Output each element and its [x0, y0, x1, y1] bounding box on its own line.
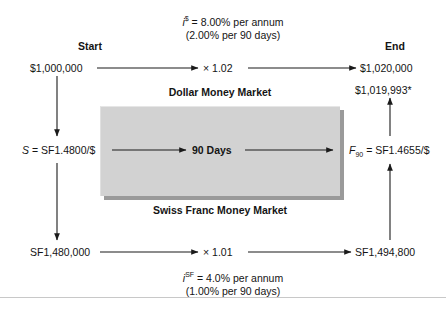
swiss-rate-line1: iSF = 4.0% per annum	[143, 268, 323, 285]
cia-proceeds-amount: $1,019,993*	[355, 84, 412, 97]
dollar-rate-annotation: i$ = 8.00% per annum (2.00% per 90 days)	[143, 12, 323, 42]
bottom-divider	[0, 297, 446, 298]
spot-rate-value: = SF1.4800/$	[32, 144, 95, 156]
dollar-money-market-label: Dollar Money Market	[130, 86, 310, 99]
swiss-rate-annotation: iSF = 4.0% per annum (1.00% per 90 days)	[143, 268, 323, 298]
forward-rate-label: F90 = SF1.4655/$	[349, 144, 429, 161]
dollar-rate-annual-text: = 8.00% per annum	[192, 16, 284, 28]
end-header: End	[355, 40, 435, 53]
spot-rate-symbol: S	[22, 144, 29, 156]
dollar-multiplier-label: × 1.02	[203, 62, 233, 75]
cia-flow-diagram: i$ = 8.00% per annum (2.00% per 90 days)…	[0, 0, 446, 310]
forward-rate-value: = SF1.4655/$	[366, 144, 429, 156]
swiss-rate-superscript: SF	[185, 271, 194, 278]
duration-label: 90 Days	[192, 144, 232, 157]
start-header: Start	[40, 40, 140, 53]
spot-rate-label: S = SF1.4800/$	[22, 144, 95, 157]
swiss-multiplier-label: × 1.01	[203, 246, 233, 259]
swiss-end-amount: SF1,494,800	[355, 246, 415, 259]
swiss-rate-line2: (1.00% per 90 days)	[143, 285, 323, 298]
dollar-rate-line2: (2.00% per 90 days)	[143, 29, 323, 42]
dollar-end-amount: $1,020,000	[360, 62, 413, 75]
dollar-start-amount: $1,000,000	[30, 62, 83, 75]
swiss-start-amount: SF1,480,000	[30, 246, 90, 259]
dollar-rate-line1: i$ = 8.00% per annum	[143, 12, 323, 29]
swiss-money-market-label: Swiss Franc Money Market	[130, 204, 310, 217]
forward-rate-subscript: 90	[355, 151, 363, 158]
swiss-rate-annual-text: = 4.0% per annum	[197, 272, 283, 284]
dollar-rate-superscript: $	[185, 15, 189, 22]
